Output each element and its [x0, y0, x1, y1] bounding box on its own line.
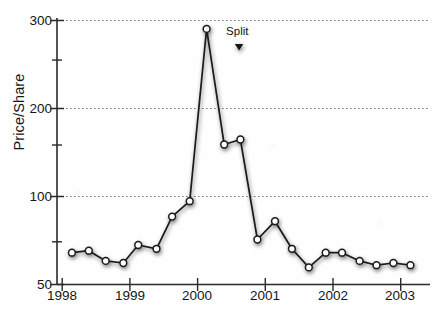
- data-point: [203, 26, 210, 33]
- data-point: [85, 247, 92, 254]
- data-point: [221, 141, 228, 148]
- data-point: [237, 136, 244, 143]
- data-point: [153, 245, 160, 252]
- data-point: [69, 249, 76, 256]
- plot-area: [0, 0, 433, 311]
- data-point: [120, 260, 127, 267]
- data-point: [169, 213, 176, 220]
- data-point: [305, 264, 312, 271]
- data-line-price-share: [72, 29, 411, 268]
- data-point: [254, 236, 261, 243]
- data-point: [373, 262, 380, 269]
- data-point: [356, 258, 363, 265]
- data-point: [407, 262, 414, 269]
- data-point: [339, 249, 346, 256]
- gridlines: [58, 21, 430, 197]
- data-point: [289, 245, 296, 252]
- data-point: [390, 260, 397, 267]
- price-share-chart: Price/Share 300 200 100 50 1998 1999 200…: [0, 0, 433, 311]
- data-point: [135, 242, 142, 249]
- data-point: [102, 258, 109, 265]
- data-point: [186, 198, 193, 205]
- data-point: [322, 249, 329, 256]
- split-down-triangle-icon: [235, 44, 243, 51]
- data-point: [272, 218, 279, 225]
